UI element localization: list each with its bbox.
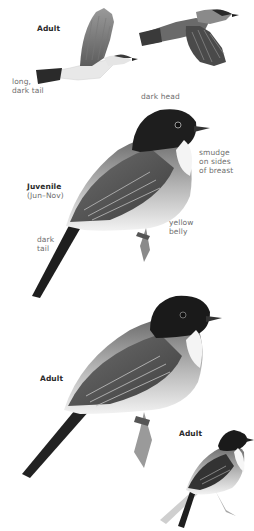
annotation-long-dark-tail: long, dark tail xyxy=(12,77,44,95)
flight-adult-heading: Adult xyxy=(37,24,60,33)
flying-bird-left xyxy=(36,8,138,84)
annotation-yellow-belly: yellow belly xyxy=(169,218,194,236)
adult-small-bird xyxy=(160,430,254,528)
illustration-plate: Adult long, dark tail dark head smudge o… xyxy=(0,0,254,531)
adult-perched-heading: Adult xyxy=(40,374,63,383)
juvenile-bird xyxy=(32,109,210,298)
annotation-dark-tail: dark tail xyxy=(37,235,54,253)
juvenile-season: (Jun–Nov) xyxy=(27,191,64,200)
annotation-dark-head: dark head xyxy=(141,92,180,101)
adult-perched-bird xyxy=(22,296,222,478)
adult-small-heading: Adult xyxy=(179,429,202,438)
annotation-smudge-breast: smudge on sides of breast xyxy=(199,148,233,175)
flying-bird-right xyxy=(139,9,239,66)
juvenile-heading: Juvenile xyxy=(27,182,61,191)
